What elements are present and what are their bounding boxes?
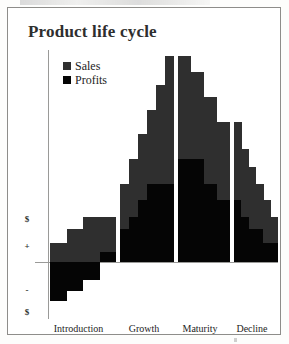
bar-profits xyxy=(217,200,230,262)
bar-profits-negative xyxy=(67,262,84,291)
bar-sales xyxy=(83,217,100,262)
x-label-growth: Growth xyxy=(118,323,170,334)
x-label-introduction: Introduction xyxy=(41,323,116,334)
bar-profits xyxy=(271,243,279,262)
page-title: Product life cycle xyxy=(28,22,157,42)
y-axis-line xyxy=(48,50,49,319)
bar-sales xyxy=(67,229,84,262)
bar-profits xyxy=(100,252,117,262)
figure-root: Product life cycle Sales Profits $ + - $… xyxy=(0,0,289,344)
bar-sales xyxy=(50,243,67,262)
scan-speck xyxy=(234,338,237,342)
chart-frame: Product life cycle Sales Profits $ + - $… xyxy=(7,7,281,335)
y-tick-minus: - xyxy=(20,285,34,295)
bar-profits-negative xyxy=(83,262,100,280)
bar-profits xyxy=(138,200,147,262)
bar-profits xyxy=(165,184,174,262)
bar-profits xyxy=(204,184,217,262)
bar-profits xyxy=(191,159,204,262)
x-label-decline: Decline xyxy=(227,323,277,334)
y-tick-dollar-positive: $ xyxy=(20,214,34,224)
plot-area xyxy=(48,50,278,319)
bar-profits xyxy=(156,184,165,262)
y-tick-plus: + xyxy=(20,241,34,251)
bar-profits xyxy=(120,229,129,262)
bar-profits xyxy=(129,217,138,262)
x-label-maturity: Maturity xyxy=(171,323,229,334)
bar-profits-negative xyxy=(50,262,67,301)
scan-artifact xyxy=(20,0,210,5)
bar-profits xyxy=(178,159,191,262)
y-tick-dollar-negative: $ xyxy=(20,307,34,317)
bar-profits xyxy=(147,184,156,262)
